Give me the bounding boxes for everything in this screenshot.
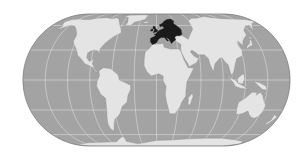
world-map xyxy=(0,0,306,155)
